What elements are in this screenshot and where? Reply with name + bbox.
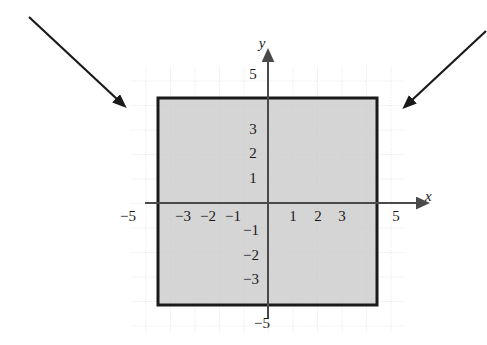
y-tick-label: 5 (249, 66, 257, 82)
x-tick-label: 3 (338, 208, 346, 224)
x-tick-label: −5 (120, 208, 136, 224)
y-tick-label: −5 (254, 315, 270, 331)
y-tick-label: −2 (243, 247, 259, 263)
x-tick-label: −1 (225, 208, 241, 224)
x-tick-label: −3 (175, 208, 191, 224)
x-tick-label: 1 (289, 208, 297, 224)
y-tick-label: 3 (249, 121, 257, 137)
y-tick-label: −3 (243, 271, 259, 287)
x-tick-label: 5 (392, 208, 400, 224)
coordinate-plane-figure: x y −5 −3 −2 −1 1 2 3 5 5 3 2 1 −1 −2 −3… (0, 0, 487, 345)
x-tick-label: 2 (314, 208, 322, 224)
x-tick-label: −2 (200, 208, 216, 224)
figure-svg: x y −5 −3 −2 −1 1 2 3 5 5 3 2 1 −1 −2 −3… (0, 0, 487, 345)
y-tick-label: 2 (249, 145, 257, 161)
x-axis-label: x (424, 188, 432, 204)
y-tick-label: 1 (249, 170, 257, 186)
y-axis-label: y (257, 35, 266, 51)
y-tick-label: −1 (243, 222, 259, 238)
